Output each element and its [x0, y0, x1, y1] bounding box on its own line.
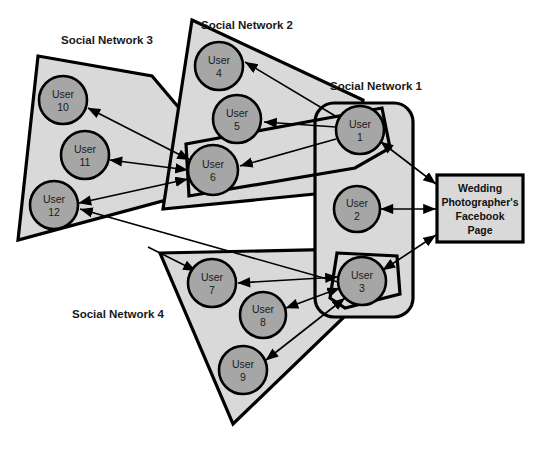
node-user-1-label-line1: User — [349, 118, 372, 130]
network-label-sn3: Social Network 3 — [61, 34, 153, 46]
wedding-page-box[interactable]: Wedding Photographer's Facebook Page — [437, 175, 523, 242]
network-label-sn4: Social Network 4 — [72, 308, 165, 320]
wedding-page-line-3: Facebook — [455, 210, 504, 222]
node-user-5[interactable]: User 5 — [213, 95, 261, 143]
wedding-page-line-2: Photographer's — [441, 196, 518, 208]
network-label-sn1: Social Network 1 — [330, 80, 423, 92]
node-user-4-label-line2: 4 — [216, 67, 222, 79]
social-network-diagram: User 1 User 2 User 3 User 4 User 5 — [0, 0, 542, 451]
node-user-2-label-line2: 2 — [354, 210, 360, 222]
node-user-8-label-line2: 8 — [260, 316, 266, 328]
node-user-7-label-line1: User — [201, 271, 224, 283]
node-user-4-label-line1: User — [208, 54, 231, 66]
node-user-11-label-line2: 11 — [80, 156, 91, 168]
node-user-1-label-line2: 1 — [357, 131, 363, 143]
node-user-12-label-line1: User — [43, 193, 66, 205]
node-user-10-label-line1: User — [52, 88, 75, 100]
node-user-10[interactable]: User 10 — [39, 76, 87, 124]
node-user-2-label-line1: User — [346, 197, 369, 209]
node-user-1[interactable]: User 1 — [336, 106, 384, 154]
node-user-6-label-line2: 6 — [210, 171, 216, 183]
node-user-7[interactable]: User 7 — [188, 259, 236, 307]
node-user-6[interactable]: User 6 — [188, 145, 238, 195]
node-user-12-label-line2: 12 — [48, 206, 60, 218]
node-user-6-label-line1: User — [202, 158, 225, 170]
node-user-7-label-line2: 7 — [209, 284, 215, 296]
node-user-3-label-line2: 3 — [359, 282, 365, 294]
node-user-2[interactable]: User 2 — [334, 186, 380, 232]
node-user-11-label-line1: User — [74, 143, 97, 155]
wedding-page-line-1: Wedding — [458, 182, 502, 194]
node-user-3[interactable]: User 3 — [338, 257, 386, 305]
node-user-8[interactable]: User 8 — [240, 292, 286, 338]
node-user-4[interactable]: User 4 — [195, 42, 243, 90]
node-user-8-label-line1: User — [252, 303, 275, 315]
node-user-3-label-line1: User — [351, 269, 374, 281]
node-user-9[interactable]: User 9 — [219, 346, 267, 394]
wedding-page-line-4: Page — [467, 224, 492, 236]
node-user-5-label-line2: 5 — [234, 120, 240, 132]
node-user-9-label-line1: User — [232, 358, 255, 370]
node-user-9-label-line2: 9 — [240, 371, 246, 383]
node-user-11[interactable]: User 11 — [61, 131, 109, 179]
node-user-10-label-line2: 10 — [57, 101, 69, 113]
diagram-canvas: User 1 User 2 User 3 User 4 User 5 — [0, 0, 542, 451]
network-label-sn2: Social Network 2 — [201, 19, 293, 31]
node-user-12[interactable]: User 12 — [30, 181, 78, 229]
node-user-5-label-line1: User — [226, 107, 249, 119]
